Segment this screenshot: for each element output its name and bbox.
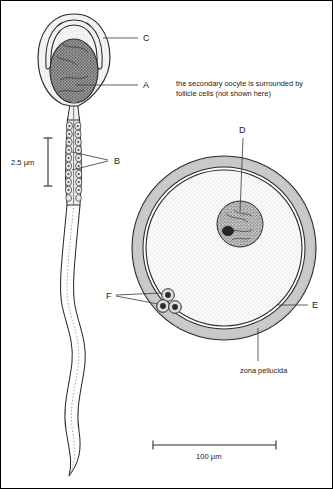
label-d: D [239, 125, 246, 135]
figure-container: 2.5 µm C A B [0, 0, 333, 489]
annotation-line-1: the secondary oocyte is surrounded by [176, 79, 303, 88]
label-e: E [312, 300, 318, 310]
sperm-scale-label: 2.5 µm [11, 158, 34, 167]
annotation-line-2: follicle cells (not shown here) [176, 89, 271, 98]
sperm-nucleus [50, 39, 98, 104]
label-c: C [143, 33, 150, 43]
label-a: A [143, 80, 149, 90]
label-b: B [114, 156, 120, 166]
oocyte-plasma-membrane [146, 170, 302, 326]
label-f: F [106, 291, 112, 301]
zona-pellucida-label: zona pellucida [240, 366, 288, 375]
nucleolus [222, 226, 233, 236]
oocyte-scale-label: 100 µm [196, 452, 221, 461]
